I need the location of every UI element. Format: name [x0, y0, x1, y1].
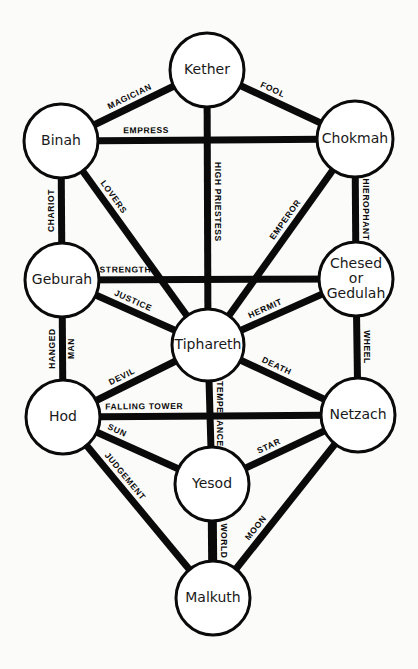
sephirah-label: Tiphareth	[174, 336, 242, 352]
sephirah-netzach: Netzach	[321, 378, 395, 452]
sephirah-label: Geburah	[32, 271, 92, 287]
path-label: FALLING TOWER	[105, 401, 183, 412]
tree-of-life-diagram: KetherBinahChokmahGeburahChesedorGedulah…	[0, 0, 418, 669]
path-label: HANGED	[47, 328, 57, 368]
sephirah-chesed: ChesedorGedulah	[319, 242, 393, 316]
sephirah-kether: Kether	[170, 33, 244, 107]
path-label: WORLD	[219, 523, 229, 558]
sephirah-label: Chesed	[330, 255, 382, 271]
sephirah-label: Gedulah	[327, 285, 386, 301]
sephirah-label: Netzach	[329, 406, 386, 422]
path-label: STRENGTH	[100, 264, 152, 274]
sephirah-yesod: Yesod	[175, 447, 249, 521]
sephirah-geburah: Geburah	[25, 243, 99, 317]
path-label: EMPRESS	[123, 125, 169, 135]
path-label: HIGH PRIESTESS	[213, 162, 223, 242]
path-label: TEMPERANCE	[215, 381, 225, 447]
sephirah-tiphareth: Tiphareth	[172, 309, 244, 381]
path-label: HIEROPHANT	[361, 178, 371, 240]
sephirah-label: Kether	[184, 61, 230, 77]
path-label: CHARIOT	[46, 189, 56, 232]
sephirah-label: Yesod	[191, 475, 232, 491]
sephirah-binah: Binah	[24, 104, 98, 178]
sephirah-label: Chokmah	[322, 130, 388, 146]
path-label: WHEEL	[362, 330, 372, 364]
path-high-priestess	[207, 70, 208, 345]
sephirah-hod: Hod	[26, 380, 100, 454]
sephirah-malkuth: Malkuth	[176, 561, 250, 635]
sephirah-label: Malkuth	[185, 589, 240, 605]
sephirah-label: Hod	[49, 408, 77, 424]
sephirah-label: or	[349, 270, 364, 286]
path-falling-tower	[63, 415, 358, 417]
sephirah-label: Binah	[41, 132, 81, 148]
path-label: MAN	[66, 338, 76, 359]
sephirah-chokmah: Chokmah	[317, 101, 393, 177]
path-strength	[62, 279, 356, 280]
